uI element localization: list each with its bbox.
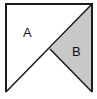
label-a: A: [23, 25, 32, 40]
region-b-shaded: [50, 4, 92, 92]
label-b: B: [72, 44, 81, 59]
geometry-diagram: A B: [0, 0, 97, 99]
